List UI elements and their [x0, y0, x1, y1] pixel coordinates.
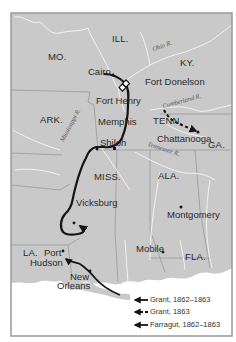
city-label-cairo: Cairo [88, 67, 111, 77]
legend-item-grant-1863: Grant, 1863 [150, 308, 190, 316]
state-label-tenn: TENN. [153, 116, 183, 126]
city-label-fort-donelson: Fort Donelson [145, 77, 205, 87]
state-label-fla: FLA. [185, 252, 206, 262]
city-label-vicksburg: Vicksburg [76, 198, 118, 208]
state-label-ky: KY. [180, 58, 195, 68]
state-label-miss: MISS. [94, 172, 121, 182]
state-label-mo: MO. [48, 52, 67, 62]
legend-item-farragut-1862-1863: Farragut, 1862–1863 [150, 321, 220, 329]
city-label-port-hudson-2: Hudson [30, 258, 63, 268]
legend-arrows [135, 300, 148, 325]
city-label-fort-henry: Fort Henry [96, 96, 141, 106]
state-label-ala: ALA. [158, 171, 179, 181]
state-label-ill: ILL. [112, 34, 129, 44]
city-label-montgomery: Montgomery [167, 210, 220, 220]
state-label-ark: ARK. [40, 115, 63, 125]
legend-item-grant-1862-1863: Grant, 1862–1863 [150, 296, 210, 304]
city-label-memphis: Memphis [98, 117, 137, 127]
city-label-new-orleans-2: Orleans [57, 281, 90, 291]
city-label-mobile: Mobile [136, 244, 164, 254]
land-mass [11, 13, 232, 284]
city-label-chattanooga: Chattanooga [157, 134, 211, 144]
city-label-shiloh: Shiloh [100, 138, 126, 148]
